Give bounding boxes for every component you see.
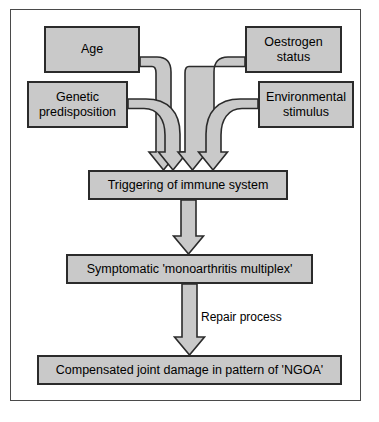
edge-genetic-trigger-arrow bbox=[128, 99, 188, 170]
edge-age-trigger-arrow bbox=[140, 57, 178, 170]
node-symptomatic-monoarthritis-multiplex-label: Symptomatic 'monoarthritis multiplex' bbox=[83, 262, 297, 277]
figure-canvas: Age Oestrogen status Genetic predisposit… bbox=[0, 0, 379, 422]
node-compensated-joint-damage[interactable]: Compensated joint damage in pattern of '… bbox=[37, 355, 342, 385]
edge-environmental-trigger-arrow bbox=[199, 99, 259, 170]
node-age[interactable]: Age bbox=[44, 26, 140, 73]
edge-label-repair-process: Repair process bbox=[201, 310, 282, 324]
flowchart-diagram: Age Oestrogen status Genetic predisposit… bbox=[0, 0, 379, 422]
node-triggering-of-immune-system[interactable]: Triggering of immune system bbox=[88, 170, 288, 200]
node-genetic-predisposition-label: Genetic predisposition bbox=[29, 90, 126, 119]
node-compensated-joint-damage-label: Compensated joint damage in pattern of '… bbox=[52, 363, 327, 378]
edge-oestrogen-trigger-arrow bbox=[178, 57, 245, 170]
node-environmental-stimulus[interactable]: Environmental stimulus bbox=[258, 81, 354, 128]
node-age-label: Age bbox=[77, 42, 107, 57]
edge-symptomatic-compensated-arrow bbox=[175, 284, 205, 355]
node-symptomatic-monoarthritis-multiplex[interactable]: Symptomatic 'monoarthritis multiplex' bbox=[66, 254, 313, 284]
node-triggering-of-immune-system-label: Triggering of immune system bbox=[104, 178, 273, 193]
node-oestrogen-status[interactable]: Oestrogen status bbox=[245, 26, 342, 73]
edge-trigger-symptomatic-arrow bbox=[174, 200, 204, 254]
node-genetic-predisposition[interactable]: Genetic predisposition bbox=[27, 81, 128, 128]
node-environmental-stimulus-label: Environmental stimulus bbox=[260, 90, 352, 119]
node-oestrogen-status-label: Oestrogen status bbox=[247, 35, 340, 64]
